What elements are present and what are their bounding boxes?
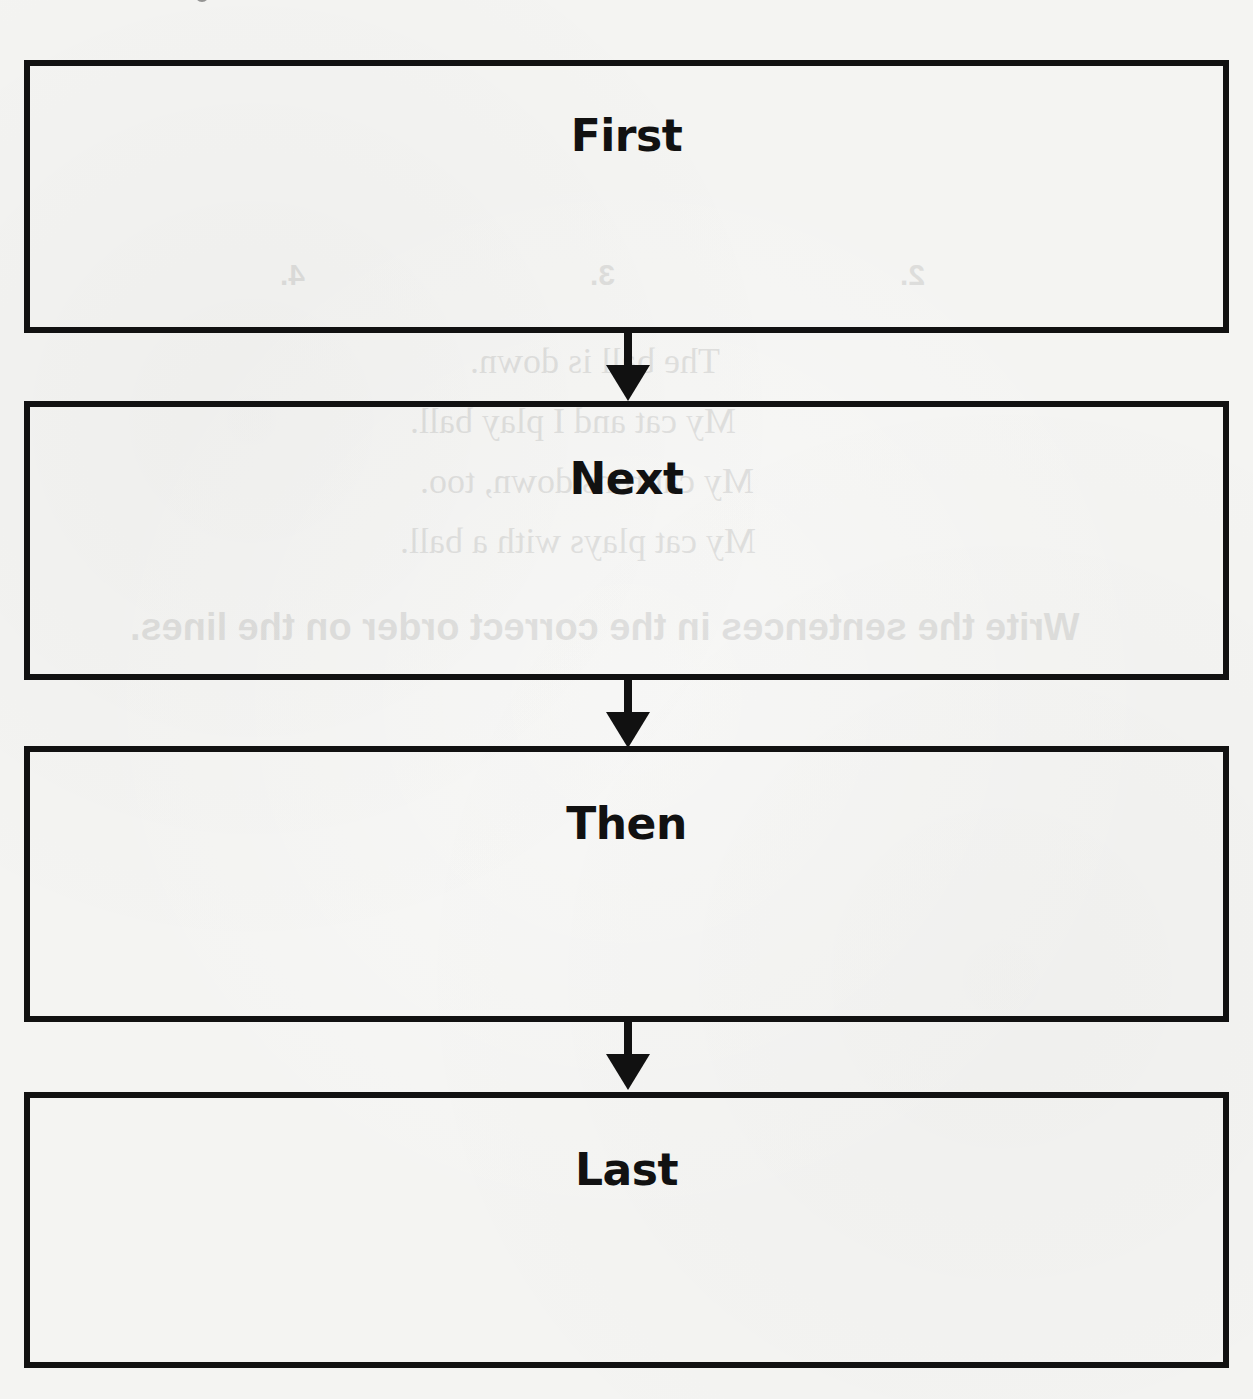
stage-label-first: First	[30, 110, 1223, 161]
stage-box-first: First	[24, 60, 1229, 333]
partial-top-glyph	[195, 0, 209, 2]
stage-label-next: Next	[30, 453, 1223, 504]
stage-box-next: Next	[24, 401, 1229, 680]
arrow-down-icon	[606, 1022, 650, 1092]
stage-label-then: Then	[30, 798, 1223, 849]
stage-box-then: Then	[24, 746, 1229, 1022]
stage-box-last: Last	[24, 1092, 1229, 1368]
stage-label-last: Last	[30, 1144, 1223, 1195]
arrow-down-icon	[606, 333, 650, 401]
bleed-line-1: The ball is down.	[470, 340, 720, 382]
arrow-down-icon	[606, 680, 650, 748]
